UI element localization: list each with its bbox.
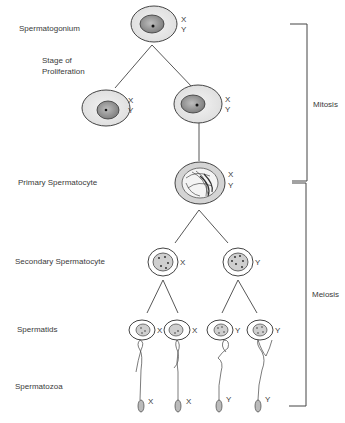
chr-spermatozoon-1: X xyxy=(148,397,153,406)
secondary-spermatocyte-y-cell xyxy=(223,248,253,276)
primary-spermatocyte-cell xyxy=(175,162,225,204)
spermatid-3-cell xyxy=(207,320,233,340)
chr-prolif-right-y: Y xyxy=(225,105,230,114)
label-spermatids: Spermatids xyxy=(17,325,57,335)
proliferation-left-cell xyxy=(82,90,130,126)
label-meiosis: Meiosis xyxy=(312,290,339,300)
chr-spermatozoon-2: X xyxy=(186,397,191,406)
label-spermatogonium: Spermatogonium xyxy=(19,24,80,34)
spermatid-4-cell xyxy=(247,320,273,340)
chr-secondary-y: Y xyxy=(255,258,260,267)
chr-spermatid-2: X xyxy=(192,326,197,335)
label-proliferation-line1: Stage of xyxy=(42,56,72,66)
mitosis-bracket xyxy=(290,24,307,181)
chr-spermatid-4: Y xyxy=(275,326,280,335)
spermatid-2-cell xyxy=(164,320,190,340)
spermatozoon-1 xyxy=(136,340,144,412)
chr-spermatozoon-3: Y xyxy=(226,395,231,404)
label-mitosis: Mitosis xyxy=(313,100,338,110)
chr-spermatozoon-4: Y xyxy=(265,395,270,404)
phase-brackets xyxy=(289,24,307,406)
chr-secondary-x: X xyxy=(180,258,185,267)
chr-prolif-left-y: Y xyxy=(128,106,133,115)
spermatogonium-cell xyxy=(131,6,177,42)
chr-spermatid-3: Y xyxy=(235,326,240,335)
chr-primary-y: Y xyxy=(228,181,233,190)
spermatid-1-cell xyxy=(129,320,155,340)
chr-spermatid-1: X xyxy=(157,326,162,335)
secondary-spermatocyte-x-cell xyxy=(148,248,178,276)
spermatozoon-2 xyxy=(174,340,181,412)
label-secondary-spermatocyte: Secondary Spermatocyte xyxy=(15,257,105,267)
proliferation-right-cell xyxy=(174,85,222,123)
chr-primary-x: X xyxy=(228,170,233,179)
meiosis-bracket xyxy=(289,183,306,406)
chr-spermatogonium-y: Y xyxy=(181,25,186,34)
label-proliferation-line2: Proliferation xyxy=(42,67,85,77)
chr-spermatogonium-x: X xyxy=(181,15,186,24)
spermatozoa-group xyxy=(136,340,272,412)
chr-prolif-left-x: X xyxy=(128,96,133,105)
label-primary-spermatocyte: Primary Spermatocyte xyxy=(18,178,97,188)
chr-prolif-right-x: X xyxy=(225,95,230,104)
label-spermatozoa: Spermatozoa xyxy=(15,382,63,392)
